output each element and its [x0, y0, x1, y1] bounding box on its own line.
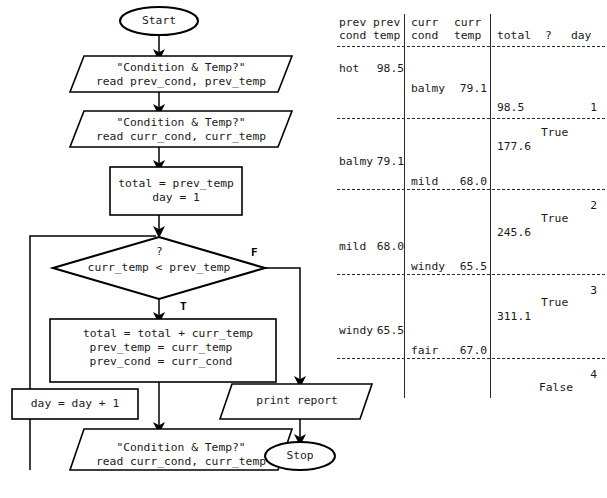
trace-hrule-header [337, 46, 605, 47]
start-terminator [120, 7, 198, 35]
trace-row1-prev-temp: 98.5 [351, 62, 404, 75]
trace-row5-question: False [539, 381, 573, 394]
trace-row4-day: 4 [552, 368, 597, 381]
trace-header-question: ? [545, 29, 552, 43]
trace-header-curr-cond-line2: cond [411, 29, 438, 43]
flowchart-trace-figure: Start "Condition & Temp?" read prev_cond… [0, 0, 607, 498]
trace-row3-prev-temp: 68.0 [351, 240, 404, 253]
accumulate-process-shape [50, 319, 276, 382]
trace-row1-day: 1 [552, 101, 597, 114]
trace-row4-total: 311.1 [497, 310, 531, 323]
io-read-prev-shape [70, 56, 292, 92]
trace-header-total: total [497, 29, 531, 43]
trace-row4-curr-cond: fair [411, 344, 438, 357]
trace-header-day: day [571, 29, 591, 43]
decision-question-mark: ? [156, 245, 163, 258]
trace-hrule-row3 [337, 274, 605, 275]
trace-header-prev-cond-line1: prev [339, 16, 366, 30]
trace-row2-question: True [541, 126, 568, 139]
io-read-curr-bottom-shape [70, 429, 292, 470]
trace-header-curr-cond-line1: curr [411, 16, 438, 30]
io-read-curr-top-shape [70, 111, 292, 147]
trace-header-prev-temp-line2: temp [373, 29, 400, 43]
trace-row2-curr-temp: 68.0 [437, 175, 487, 188]
decision-false-label: F [251, 246, 258, 259]
init-process-shape [110, 167, 242, 215]
decision-true-label: T [180, 300, 187, 313]
trace-row2-prev-temp: 79.1 [351, 155, 404, 168]
trace-row1-total: 98.5 [497, 101, 524, 114]
trace-hrule-row4 [337, 358, 605, 359]
trace-header-prev-temp-line1: prev [373, 16, 400, 30]
trace-row2-day: 2 [552, 199, 597, 212]
trace-row3-curr-temp: 65.5 [437, 260, 487, 273]
trace-header-curr-temp-line1: curr [454, 16, 481, 30]
trace-hrule-row2 [337, 189, 605, 190]
trace-row2-curr-cond: mild [411, 175, 438, 188]
trace-row2-total: 177.6 [497, 140, 531, 153]
trace-row4-prev-temp: 65.5 [351, 324, 404, 337]
increment-day-process-shape [12, 389, 138, 419]
trace-row3-question: True [541, 212, 568, 225]
trace-vrule-prev-curr [404, 14, 405, 398]
stop-terminator [265, 442, 335, 470]
flowchart-diagram [0, 0, 380, 498]
trace-vrule-curr-total [490, 14, 491, 398]
trace-row1-curr-temp: 79.1 [437, 82, 487, 95]
trace-row3-total: 245.6 [497, 226, 531, 239]
trace-row4-curr-temp: 67.0 [437, 344, 487, 357]
trace-hrule-row1 [337, 118, 605, 119]
trace-row4-question: True [541, 296, 568, 309]
trace-header-prev-cond-line2: cond [339, 29, 366, 43]
trace-header-curr-temp-line2: temp [454, 29, 481, 43]
trace-table: prev cond prev temp curr cond curr temp … [337, 0, 607, 420]
